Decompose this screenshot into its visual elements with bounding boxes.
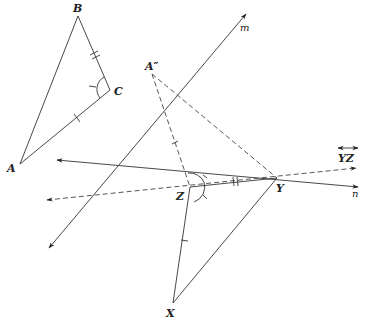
label-a: A xyxy=(6,162,16,175)
geometry-diagram: B C A A″ Z Y X m n YZ xyxy=(0,0,369,330)
label-b: B xyxy=(72,2,82,15)
label-line-m: m xyxy=(240,22,249,33)
triangle-xyz xyxy=(173,173,277,303)
line-yz-notation: YZ xyxy=(338,148,358,165)
line-m xyxy=(49,14,246,248)
angle-tick-z-lower xyxy=(203,195,207,199)
triangle-abc xyxy=(20,16,110,164)
angle-arc-z-upper xyxy=(188,173,204,182)
segment-a2-y-dashed xyxy=(152,74,277,178)
angle-tick-c xyxy=(89,86,96,87)
label-c: C xyxy=(114,85,123,98)
angle-tick-z-upper xyxy=(203,175,207,178)
label-z: Z xyxy=(175,190,185,203)
angle-arc-c xyxy=(97,77,104,98)
label-line-n: n xyxy=(352,188,358,199)
label-line-yz: YZ xyxy=(338,152,355,165)
segment-ab xyxy=(20,16,78,164)
label-a-double-prime: A″ xyxy=(144,60,159,73)
angle-arc-z-lower xyxy=(194,182,205,202)
label-y: Y xyxy=(276,182,285,195)
segment-ca xyxy=(20,90,110,164)
double-tick-mark-zy xyxy=(233,177,238,186)
label-x: X xyxy=(165,307,175,320)
